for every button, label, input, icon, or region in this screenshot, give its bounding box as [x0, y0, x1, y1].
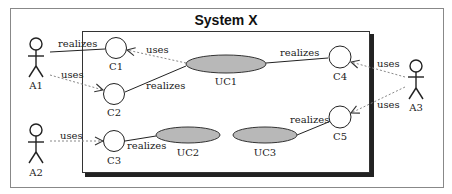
edge-label-c3-uc2: realizes [127, 140, 166, 151]
use-case-uc3-shape [233, 127, 297, 143]
actor-a1-label: A1 [28, 80, 43, 91]
component-c1-label: C1 [109, 61, 123, 72]
use-case-uc1-label: UC1 [215, 76, 237, 87]
edge-label-uc1-c4: realizes [280, 47, 319, 58]
use-case-uc3-label: UC3 [254, 147, 276, 158]
component-c2-circle [104, 84, 125, 105]
edge-label-a2-c3: uses [60, 130, 83, 141]
actor-a3-label: A3 [408, 102, 423, 113]
system-title: System X [194, 12, 258, 28]
use-case-uc1-shape [186, 55, 266, 73]
edge-label-uc1-c1: uses [146, 44, 169, 55]
component-c4-label: C4 [333, 71, 347, 82]
edge-label-c2-uc1: realizes [146, 80, 185, 91]
component-c5-circle [329, 106, 351, 128]
actor-a2-label: A2 [28, 167, 43, 178]
component-c3-circle [104, 131, 125, 152]
use-case-uc2-shape [156, 127, 220, 143]
component-c4-circle [329, 46, 351, 68]
component-c1-circle [106, 38, 127, 59]
edge-label-a1-c1: realizes [58, 38, 97, 49]
edge-label-a1-c2: uses [61, 69, 84, 80]
component-c2-label: C2 [107, 107, 121, 118]
component-c3-label: C3 [107, 155, 121, 166]
use-case-uc2-label: UC2 [177, 147, 199, 158]
component-c5-label: C5 [333, 131, 347, 142]
edge-label-uc3-c5: realizes [290, 114, 329, 125]
edge-label-a3-c4: uses [377, 58, 400, 69]
use-case-diagram: System X realizes uses uses realizes rea… [0, 0, 452, 194]
edge-label-a3-c5: uses [377, 99, 400, 110]
